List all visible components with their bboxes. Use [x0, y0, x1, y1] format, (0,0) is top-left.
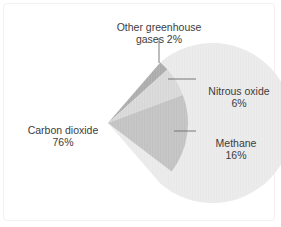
- pie-chart-figure: Other greenhouse gases 2% Nitrous oxide …: [0, 0, 281, 227]
- pie-label-nitrous-oxide: Nitrous oxide 6%: [198, 72, 280, 122]
- pie-label-other-greenhouse-gases-line1: Other greenhouse: [117, 21, 202, 33]
- pie-label-carbon-dioxide: Carbon dioxide 76%: [16, 111, 110, 161]
- pie-label-methane: Methane 16%: [198, 124, 274, 174]
- pie-label-carbon-dioxide-line2: 76%: [16, 136, 110, 149]
- pie-label-nitrous-oxide-line2: 6%: [198, 97, 280, 110]
- pie-label-carbon-dioxide-line1: Carbon dioxide: [28, 124, 99, 136]
- pie-label-other-greenhouse-gases: Other greenhouse gases 2%: [107, 8, 211, 58]
- pie-label-methane-line2: 16%: [198, 149, 274, 162]
- pie-label-methane-line1: Methane: [216, 137, 257, 149]
- pie-label-nitrous-oxide-line1: Nitrous oxide: [208, 85, 269, 97]
- pie-label-other-greenhouse-gases-line2: gases 2%: [107, 33, 211, 46]
